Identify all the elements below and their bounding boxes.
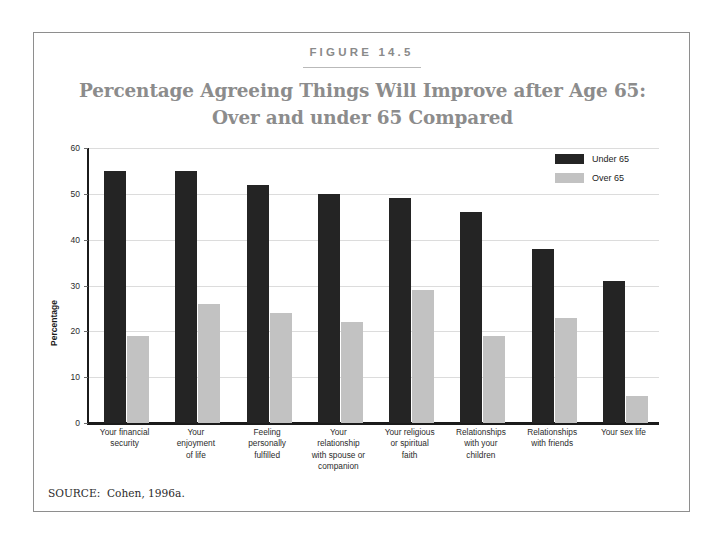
bar-under-65-6: [532, 249, 554, 423]
chart-title-line-1: Percentage Agreeing Things Will Improve …: [64, 77, 661, 104]
x-axis-label-6: Relationshipswith friends: [517, 427, 588, 450]
y-axis-tick-30: 30: [56, 281, 80, 291]
bar-under-65-4: [389, 198, 411, 423]
bar-over-65-3: [341, 322, 363, 423]
bar-group: [318, 148, 363, 423]
bar-group: [175, 148, 220, 423]
y-axis-tick-labels: 0102030405060: [56, 148, 80, 423]
bar-under-65-0: [104, 171, 126, 423]
figure-header-divider: [303, 67, 421, 68]
y-tickmark-20: [84, 331, 88, 332]
chart-title-line-2: Over and under 65 Compared: [64, 104, 661, 131]
bar-series-container: [89, 148, 659, 423]
bar-group: [603, 148, 648, 423]
y-tickmark-30: [84, 286, 88, 287]
y-axis-tick-10: 10: [56, 372, 80, 382]
y-axis-tick-40: 40: [56, 235, 80, 245]
source-note: SOURCE: Cohen, 1996a.: [48, 487, 185, 499]
legend-label: Under 65: [592, 154, 629, 164]
bar-over-65-0: [127, 336, 149, 423]
bar-over-65-5: [483, 336, 505, 423]
x-axis-label-5: Relationshipswith yourchildren: [445, 427, 516, 461]
bar-group: [460, 148, 505, 423]
bar-over-65-1: [198, 304, 220, 423]
chart-plot-area: Percentage 0102030405060 Your financials…: [34, 148, 691, 513]
legend-item-under-65: Under 65: [555, 151, 675, 167]
bar-under-65-5: [460, 212, 482, 423]
y-axis-tick-60: 60: [56, 143, 80, 153]
bar-under-65-3: [318, 194, 340, 423]
chart-legend: Under 65Over 65: [555, 151, 675, 189]
bar-over-65-2: [270, 313, 292, 423]
x-axis-label-3: Yourrelationshipwith spouse orcompanion: [303, 427, 374, 473]
figure-header: FIGURE 14.5: [34, 42, 689, 68]
x-axis-label-1: Yourenjoymentof life: [160, 427, 231, 461]
y-tickmark-40: [84, 240, 88, 241]
bar-over-65-7: [626, 396, 648, 424]
y-tickmark-10: [84, 377, 88, 378]
figure-number-label: FIGURE 14.5: [309, 46, 413, 58]
x-axis-label-0: Your financialsecurity: [89, 427, 160, 450]
bar-under-65-2: [247, 185, 269, 423]
legend-swatch-icon: [555, 173, 584, 183]
bar-under-65-7: [603, 281, 625, 423]
bar-group: [389, 148, 434, 423]
y-axis-tick-20: 20: [56, 326, 80, 336]
legend-swatch-icon: [555, 154, 584, 164]
x-axis-label-7: Your sex life: [588, 427, 659, 438]
legend-label: Over 65: [592, 173, 624, 183]
bar-over-65-6: [555, 318, 577, 423]
bar-group: [104, 148, 149, 423]
bar-group: [247, 148, 292, 423]
y-axis-tick-50: 50: [56, 189, 80, 199]
bar-over-65-4: [412, 290, 434, 423]
bar-under-65-1: [175, 171, 197, 423]
y-axis-tick-0: 0: [56, 418, 80, 428]
figure-frame: FIGURE 14.5 Percentage Agreeing Things W…: [33, 32, 690, 512]
y-tickmark-0: [84, 423, 88, 424]
chart-canvas: [87, 148, 659, 423]
x-axis-label-2: Feelingpersonallyfulfilled: [232, 427, 303, 461]
y-tickmark-50: [84, 194, 88, 195]
y-tickmark-60: [84, 148, 88, 149]
page-title: Percentage Agreeing Things Will Improve …: [64, 77, 661, 131]
x-axis-label-4: Your religiousor spiritualfaith: [374, 427, 445, 461]
legend-item-over-65: Over 65: [555, 170, 675, 186]
bar-group: [532, 148, 577, 423]
